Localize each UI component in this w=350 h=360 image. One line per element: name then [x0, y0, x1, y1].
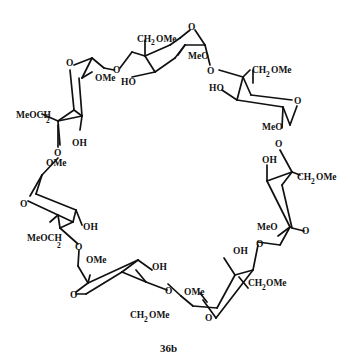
ring-oxygen: O — [70, 290, 77, 300]
ch2-label: CH — [248, 278, 263, 288]
ch2-label: CH — [137, 34, 152, 44]
ho-label: HO — [121, 77, 136, 87]
subscript-2: 2 — [311, 177, 315, 186]
subscript-2: 2 — [144, 315, 148, 324]
subscript-2: 2 — [46, 116, 50, 125]
oh-label: OH — [262, 155, 277, 165]
glucose-unit-lower-left — [28, 158, 82, 244]
oh-label: OH — [152, 262, 167, 272]
ring-oxygen: O — [302, 226, 309, 236]
ho-label: HO — [209, 83, 224, 93]
oh-label: OH — [72, 138, 87, 148]
glucose-unit-upper-left — [42, 58, 114, 147]
ring-oxygen: O — [294, 96, 301, 106]
ome-label: OMe — [316, 172, 337, 182]
glucose-unit-top-left — [120, 40, 175, 77]
ring-oxygen: O — [20, 199, 27, 209]
link-oxygen: O — [54, 148, 61, 158]
link-oxygen: O — [275, 139, 282, 149]
link-oxygen: O — [165, 286, 172, 296]
ch2-label: CH — [297, 172, 312, 182]
ome-label: OMe — [271, 65, 292, 75]
link-oxygen: O — [75, 242, 82, 252]
meo-label: MeO — [257, 222, 278, 232]
glucose-unit-upper-right — [219, 70, 297, 128]
ring-oxygen: O — [188, 22, 195, 32]
subscript-2: 2 — [266, 70, 270, 79]
ome-top-label: OMe — [86, 255, 107, 265]
ome-label: OMe — [149, 310, 170, 320]
oh-label: OH — [83, 222, 98, 232]
link-oxygen: O — [113, 65, 120, 75]
oh-label: OH — [233, 246, 248, 256]
ome-label: OMe — [266, 278, 287, 288]
ch2-label: CH — [130, 310, 145, 320]
subscript-2: 2 — [151, 38, 155, 47]
ring-oxygen: O — [66, 58, 73, 68]
subscript-2: 2 — [57, 241, 61, 250]
ome-label: OMe — [46, 158, 67, 168]
meo-label: MeO — [188, 51, 209, 61]
meo-label: MeO — [262, 122, 283, 132]
ch2-label: CH — [252, 65, 267, 75]
ring-oxygen: O — [205, 313, 212, 323]
compound-caption: 36b — [160, 342, 177, 354]
link-oxygen: O — [207, 66, 214, 76]
ome-top-label: OMe — [184, 287, 205, 297]
cyclodextrin-structure: O OMe MeOCH 2 OH O O CH 2 OMe HO O MeO O — [0, 0, 350, 360]
